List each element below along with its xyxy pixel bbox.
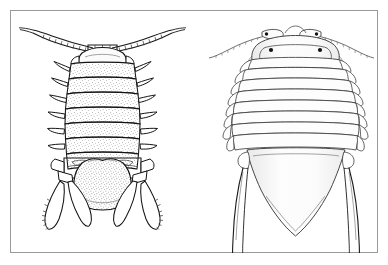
figure-plate-svg <box>0 0 388 265</box>
figure-plate <box>0 0 388 265</box>
left-specimen-pereon <box>65 62 140 169</box>
right-specimen-pereon <box>223 57 368 151</box>
